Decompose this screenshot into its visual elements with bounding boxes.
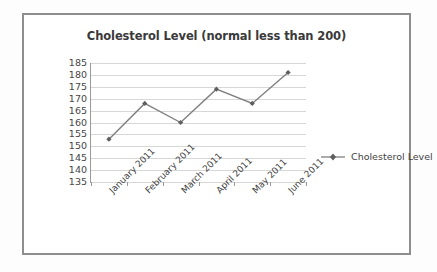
x-axis-tick <box>306 182 307 186</box>
x-axis-tick-label: March 2011 <box>180 189 186 195</box>
y-axis-tick-label: 145 <box>69 153 87 163</box>
y-axis-tick-label: 185 <box>69 58 87 68</box>
y-axis-tick-label: 150 <box>69 142 87 152</box>
series-line <box>109 73 288 140</box>
legend-marker-icon <box>320 152 346 162</box>
plot-area: 185180175170165160155150145140135 Januar… <box>90 63 306 183</box>
x-axis-tick-label: June 2011 <box>287 189 293 195</box>
y-axis-tick-label: 175 <box>69 82 87 92</box>
x-axis-tick-label: May 2011 <box>251 189 257 195</box>
x-axis-tick <box>91 182 92 186</box>
legend: Cholesterol Level <box>320 151 433 162</box>
y-axis-tick-label: 160 <box>69 118 87 128</box>
y-axis-tick-label: 170 <box>69 94 87 104</box>
chart-image: Cholesterol Level (normal less than 200)… <box>0 0 437 272</box>
x-axis-tick <box>270 182 271 186</box>
x-axis-tick <box>234 182 235 186</box>
y-axis-tick-label: 140 <box>69 165 87 175</box>
series-cholesterol-level <box>91 63 306 182</box>
x-axis-tick-label: February 2011 <box>144 189 150 195</box>
chart-title: Cholesterol Level (normal less than 200) <box>24 29 409 43</box>
legend-label-cholesterol-level: Cholesterol Level <box>351 151 433 162</box>
y-axis-tick-label: 135 <box>69 177 87 187</box>
y-axis-tick-label: 180 <box>69 70 87 80</box>
chart-frame: Cholesterol Level (normal less than 200)… <box>22 13 411 255</box>
x-axis-tick-label: January 2011 <box>108 189 114 195</box>
y-axis-tick-label: 155 <box>69 130 87 140</box>
x-axis-tick-label: April 2011 <box>215 189 221 195</box>
plot-wrapper: 185180175170165160155150145140135 Januar… <box>68 63 328 198</box>
y-axis-tick-label: 165 <box>69 106 87 116</box>
